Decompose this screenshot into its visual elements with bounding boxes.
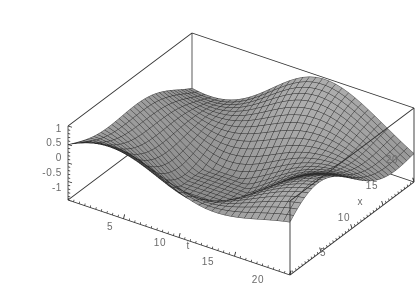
z-axis-tick-label-3: -0.5 [42,168,62,178]
x-axis-title: x [358,197,363,207]
z-axis-tick-label-0: 1 [56,124,62,134]
t-axis-tick-label-0: 5 [107,222,113,232]
t-axis-tick-label-2: 15 [202,257,214,267]
z-axis-tick-label-4: -1 [52,183,62,193]
x-axis-tick-label-3: 20 [386,155,398,165]
plot3d-figure: 10.50-0.5-151015205101520tx [0,0,415,294]
t-axis-tick-label-3: 20 [252,275,264,285]
x-axis-tick-label-0: 5 [320,248,326,258]
surface-plot-canvas [0,0,415,294]
x-axis-tick-label-2: 15 [366,181,378,191]
z-axis-tick-label-1: 0.5 [46,138,62,148]
t-axis-tick-label-1: 10 [154,238,166,248]
z-axis-tick-label-2: 0 [56,153,62,163]
t-axis-title: t [187,241,190,251]
x-axis-tick-label-1: 10 [338,213,350,223]
